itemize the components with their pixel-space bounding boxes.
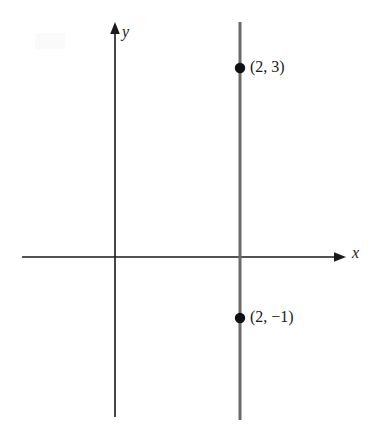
coordinate-plane-svg — [0, 0, 386, 434]
graph-figure: y x (2, 3) (2, −1) — [0, 0, 386, 434]
y-axis-arrowhead — [110, 22, 120, 34]
x-axis-arrowhead — [334, 252, 346, 262]
x-axis-label: x — [352, 245, 359, 261]
y-axis-label: y — [122, 24, 129, 40]
data-point-2-3 — [235, 63, 245, 73]
point-label-2-neg1: (2, −1) — [250, 309, 294, 325]
data-point-2-neg1 — [235, 313, 245, 323]
point-label-2-3: (2, 3) — [250, 59, 285, 75]
